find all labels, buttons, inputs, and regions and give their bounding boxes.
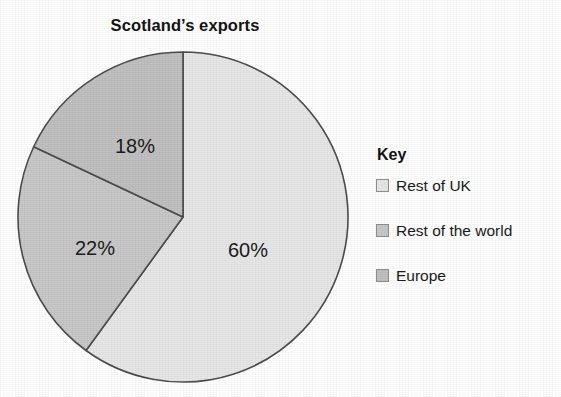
legend-swatch-icon-rest-of-uk — [376, 179, 389, 192]
legend-title: Key — [377, 146, 556, 164]
pie-slice-label-europe: 18% — [115, 135, 155, 157]
legend: Key Rest of UK Rest of the world Europe — [376, 146, 556, 287]
pie-chart-figure: Scotland’s exports 60% 22% 18% Key Rest … — [0, 0, 561, 397]
legend-item-rest-of-uk[interactable]: Rest of UK — [376, 175, 556, 197]
legend-label-europe: Europe — [396, 268, 446, 284]
pie-slices-group — [18, 52, 348, 382]
pie-slice-label-rest-of-the-world: 22% — [75, 237, 115, 259]
pie-chart-plot-area: 60% 22% 18% — [8, 42, 363, 392]
page-title: Scotland’s exports — [40, 16, 330, 35]
legend-item-rest-of-the-world[interactable]: Rest of the world — [376, 220, 556, 242]
pie-chart-svg: 60% 22% 18% — [8, 42, 363, 392]
legend-item-europe[interactable]: Europe — [376, 265, 556, 287]
pie-slice-label-rest-of-uk: 60% — [228, 239, 268, 261]
legend-swatch-icon-rest-of-the-world — [376, 224, 389, 237]
legend-label-rest-of-uk: Rest of UK — [396, 178, 471, 194]
legend-swatch-icon-europe — [376, 269, 389, 282]
legend-label-rest-of-the-world: Rest of the world — [396, 223, 512, 239]
